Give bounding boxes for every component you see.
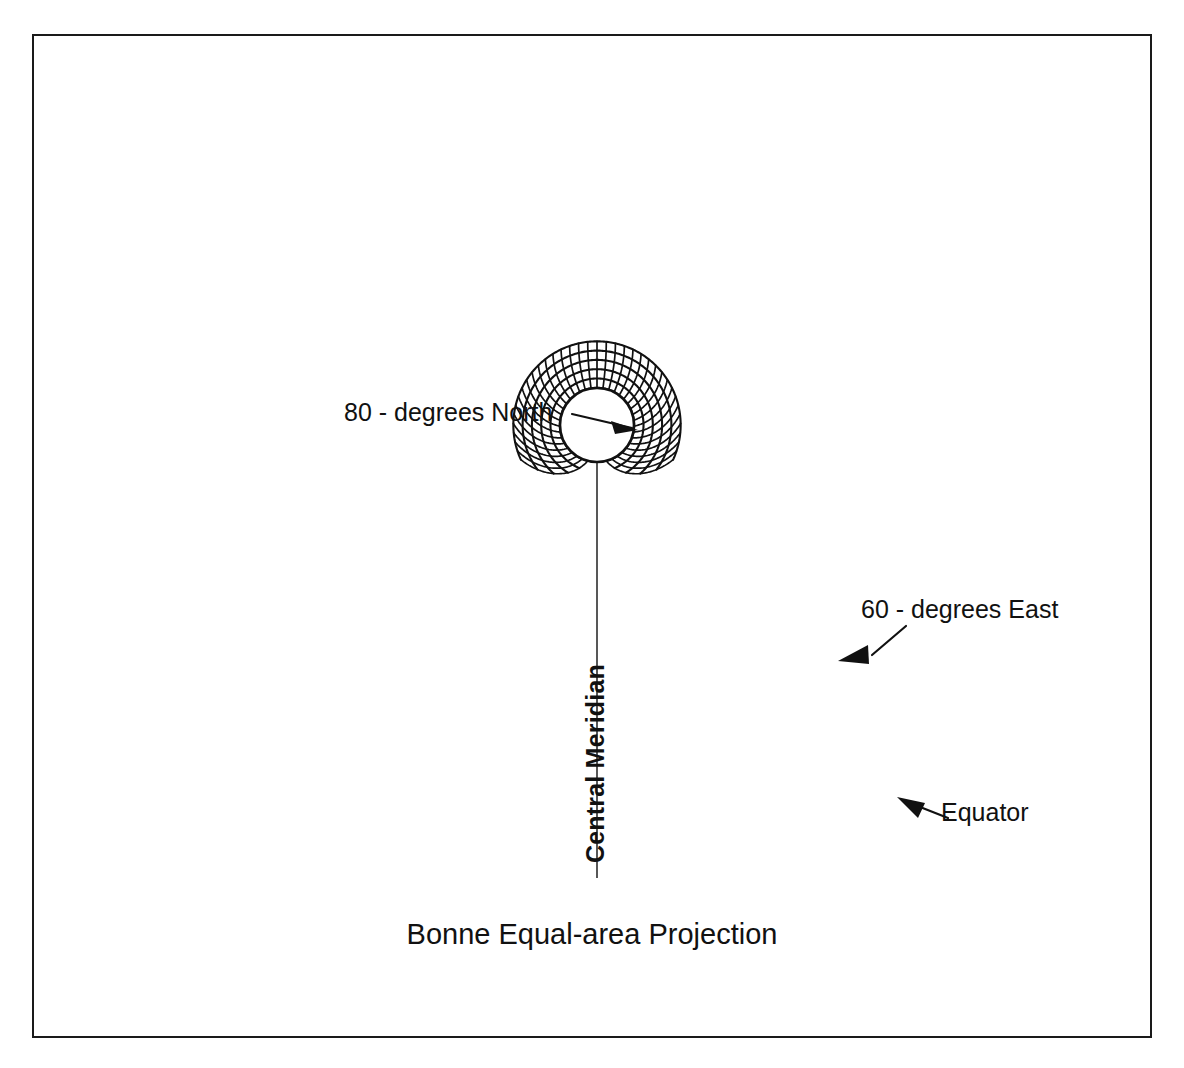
central-meridian-label: Central Meridian [583,664,608,863]
figure-root: 80 - degrees North 60 - degrees East Equ… [0,0,1184,1068]
figure-caption-title: Bonne Equal-area Projection [0,918,1184,951]
meridian-east-label: 60 - degrees East [861,597,1058,622]
equator-label: Equator [941,800,1029,825]
standard-parallel-label: 80 - degrees North [344,400,552,425]
figure-frame [32,34,1152,1038]
